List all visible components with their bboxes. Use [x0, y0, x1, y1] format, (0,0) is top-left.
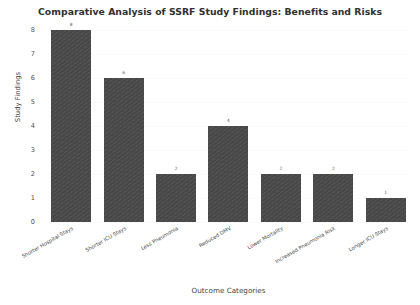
bar[interactable]: 4 — [208, 126, 248, 222]
bar-value-label: 6 — [122, 70, 125, 75]
x-axis-tick-text: Lower Mortality — [246, 225, 284, 250]
chart-figure: Comparative Analysis of SSRF Study Findi… — [0, 0, 420, 305]
bar[interactable]: 2 — [156, 174, 196, 222]
y-axis-tick-label: 7 — [31, 50, 35, 58]
y-axis-tick-label: 0 — [31, 218, 35, 226]
bar-series: 8624221 — [45, 30, 412, 222]
bar-slot: 8 — [45, 30, 97, 222]
bar[interactable]: 1 — [366, 198, 406, 222]
x-axis-label: Outcome Categories — [45, 286, 412, 295]
bar-value-label: 8 — [70, 22, 73, 27]
bar[interactable]: 8 — [51, 30, 91, 222]
bar-slot: 1 — [360, 30, 412, 222]
bar[interactable]: 6 — [104, 78, 144, 222]
y-axis-tick-label: 4 — [31, 122, 35, 130]
x-axis-tick-text: Shorter Hospital Stays — [21, 225, 74, 259]
chart-title: Comparative Analysis of SSRF Study Findi… — [0, 6, 420, 17]
y-axis-tick-label: 1 — [31, 194, 35, 202]
bar-slot: 6 — [97, 30, 149, 222]
x-axis-tick-text: Increased Pneumonia Risk — [274, 225, 336, 264]
bar-slot: 4 — [202, 30, 254, 222]
x-axis-ticks: Shorter Hospital StaysShorter ICU StaysL… — [45, 222, 412, 280]
bar-slot: 2 — [255, 30, 307, 222]
bar[interactable]: 2 — [261, 174, 301, 222]
y-axis-tick-label: 2 — [31, 170, 35, 178]
bar[interactable]: 2 — [313, 174, 353, 222]
y-axis-tick-label: 6 — [31, 74, 35, 82]
plot-area: 8624221 — [45, 30, 412, 222]
x-axis-tick-text: Reduced DMV — [197, 225, 231, 248]
y-axis-tick-label: 8 — [31, 26, 35, 34]
bar-value-label: 2 — [332, 166, 335, 171]
y-axis-tick-label: 5 — [31, 98, 35, 106]
x-axis-tick-text: Shorter ICU Stays — [84, 225, 127, 253]
y-axis-tick-label: 3 — [31, 146, 35, 154]
bar-slot: 2 — [150, 30, 202, 222]
bar-slot: 2 — [307, 30, 359, 222]
bar-value-label: 4 — [227, 118, 230, 123]
bar-value-label: 1 — [384, 190, 387, 195]
y-axis-ticks: 012345678 — [0, 30, 41, 222]
x-axis-tick-text: Longer ICU Stays — [347, 225, 388, 252]
x-axis-tick-text: Less Pneumonia — [140, 225, 179, 251]
bar-value-label: 2 — [175, 166, 178, 171]
bar-value-label: 2 — [279, 166, 282, 171]
